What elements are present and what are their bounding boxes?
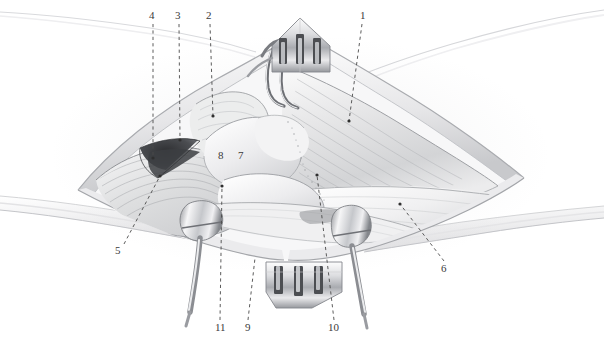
bottom-self-retaining-retractor[interactable] — [266, 262, 342, 308]
leader-dot-4 — [151, 156, 154, 159]
label-3: 3 — [175, 10, 181, 21]
label-8: 8 — [218, 150, 224, 161]
label-11: 11 — [215, 322, 226, 333]
label-1: 1 — [360, 10, 366, 21]
label-4: 4 — [149, 10, 155, 21]
leader-dot-6 — [398, 202, 401, 205]
leader-dot-1 — [347, 119, 350, 122]
label-10: 10 — [328, 322, 339, 333]
leader-dot-3 — [178, 138, 181, 141]
surgical-illustration-figure: 1234567891011 — [0, 0, 604, 340]
illustration-canvas — [0, 0, 604, 340]
label-6: 6 — [441, 263, 447, 274]
label-2: 2 — [206, 10, 212, 21]
leader-dot-10 — [315, 173, 318, 176]
leader-dot-5 — [158, 174, 161, 177]
leader-dot-11 — [220, 184, 223, 187]
label-7: 7 — [238, 150, 244, 161]
label-5: 5 — [115, 245, 121, 256]
leader-dot-2 — [211, 114, 214, 117]
label-9: 9 — [245, 322, 251, 333]
